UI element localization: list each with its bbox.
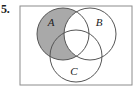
circle-a-label: A (47, 16, 55, 28)
exercise-figure: 5. A B C (0, 0, 138, 90)
exercise-number-label: 5. (1, 3, 10, 15)
venn-diagram: A B C (18, 4, 136, 89)
circle-c-label: C (70, 65, 78, 77)
circle-b-label: B (96, 16, 103, 28)
